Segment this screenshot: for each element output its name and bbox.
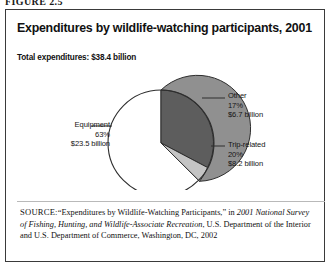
pie-label-trip-related-amount: $8.2 billion — [228, 159, 265, 169]
pie-label-equipment-percent: 63% — [28, 130, 110, 140]
source-divider — [17, 201, 325, 202]
figure-number: FIGURE 2.5 — [5, 0, 63, 7]
pie-label-trip-related-name: Trip-related — [228, 140, 265, 150]
source-prefix: SOURCE: — [20, 207, 58, 217]
pie-label-equipment-name: Equipment — [28, 120, 110, 130]
total-expenditures-label: Total expenditures: $38.4 billion — [17, 53, 136, 62]
figure-panel: Expenditures by wildlife-watching partic… — [5, 9, 325, 262]
source-note: SOURCE:“Expenditures by Wildlife-Watchin… — [20, 207, 316, 242]
pie-label-trip-related: Trip-related 20% $8.2 billion — [228, 140, 265, 169]
source-in-word: in — [228, 208, 234, 217]
pie-label-other-percent: 17% — [228, 101, 263, 111]
chart-title: Expenditures by wildlife-watching partic… — [17, 21, 312, 35]
pie-label-trip-related-percent: 20% — [228, 150, 265, 160]
pie-label-other: Other 17% $6.7 billion — [228, 91, 263, 120]
pie-label-equipment: Equipment 63% $23.5 billion — [28, 120, 110, 149]
source-quoted-title: “Expenditures by Wildlife-Watching Parti… — [58, 208, 226, 217]
pie-label-other-name: Other — [228, 91, 263, 101]
pie-label-equipment-amount: $23.5 billion — [28, 139, 110, 149]
pie-label-other-amount: $6.7 billion — [228, 110, 263, 120]
